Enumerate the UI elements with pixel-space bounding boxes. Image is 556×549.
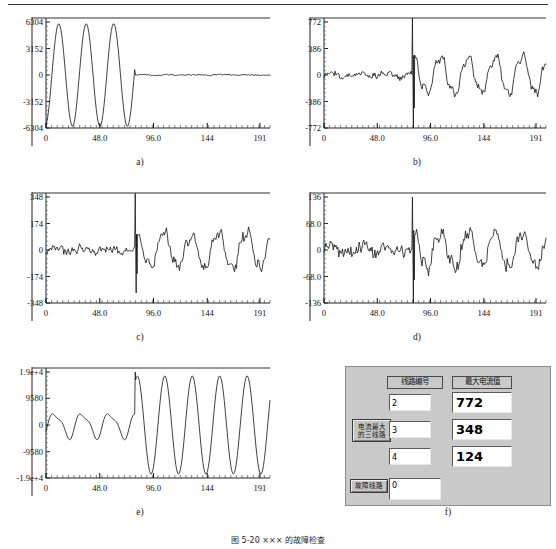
panel-caption-b: b) — [284, 157, 550, 167]
max-current-field-1[interactable]: 772 — [452, 392, 512, 413]
svg-text:191: 191 — [530, 133, 543, 143]
svg-text:191: 191 — [530, 308, 543, 318]
plot-panel-e: -1.9e+4-9580095801.9e+4048.096.0144191 — [6, 364, 274, 504]
svg-text:0: 0 — [322, 308, 326, 318]
svg-text:-348: -348 — [27, 298, 43, 308]
figure-caption: 图 5-20 ××× 的故障检查 — [0, 534, 556, 545]
svg-text:48.0: 48.0 — [370, 133, 385, 143]
svg-text:348: 348 — [30, 192, 43, 202]
svg-text:144: 144 — [201, 308, 215, 318]
svg-text:-386: -386 — [305, 97, 321, 107]
svg-text:-9580: -9580 — [23, 447, 43, 457]
column-header-line-number: 线路编号 — [387, 376, 443, 389]
svg-text:1.9e+4: 1.9e+4 — [19, 367, 43, 377]
svg-text:386: 386 — [308, 44, 322, 54]
svg-text:0: 0 — [317, 245, 321, 255]
column-header-max-current: 最大电流值 — [452, 376, 512, 389]
svg-text:0: 0 — [39, 70, 43, 80]
svg-text:68.0: 68.0 — [306, 219, 321, 229]
page-top-rule — [8, 4, 548, 5]
svg-text:144: 144 — [477, 133, 491, 143]
plot-svg-c: -348-1740174348048.096.0144191 — [6, 189, 274, 329]
svg-text:0: 0 — [44, 483, 48, 493]
panel-caption-d: d) — [284, 332, 550, 342]
svg-text:96.0: 96.0 — [146, 483, 161, 493]
panel-caption-f: f) — [345, 507, 551, 517]
max-current-field-3[interactable]: 124 — [452, 446, 512, 467]
svg-text:772: 772 — [308, 17, 321, 27]
svg-text:0: 0 — [44, 133, 48, 143]
svg-text:-136: -136 — [305, 298, 321, 308]
svg-text:191: 191 — [253, 483, 266, 493]
fault-line-output-field[interactable]: 0 — [389, 478, 441, 500]
plot-svg-a: -6304-3152031526304048.096.0144191 — [6, 14, 274, 154]
svg-text:48.0: 48.0 — [370, 308, 385, 318]
panel-caption-a: a) — [6, 157, 274, 167]
svg-text:48.0: 48.0 — [92, 133, 107, 143]
svg-text:0: 0 — [317, 70, 321, 80]
svg-text:-772: -772 — [305, 123, 321, 133]
plot-area-e: -1.9e+4-9580095801.9e+4048.096.0144191 — [6, 364, 274, 504]
svg-text:136: 136 — [308, 192, 322, 202]
svg-text:6304: 6304 — [26, 17, 44, 27]
top-three-button-label-line1: 电流最大 — [358, 423, 386, 431]
svg-text:144: 144 — [201, 133, 215, 143]
top-three-button-label-line2: 的三线路 — [358, 431, 386, 439]
plot-svg-d: -136-68.0068.0136048.096.0144191 — [284, 189, 550, 329]
plot-area-a: -6304-3152031526304048.096.0144191 — [6, 14, 274, 154]
fault-line-button[interactable]: 故障线路 — [350, 479, 388, 493]
figure-page: -6304-3152031526304048.096.0144191 a) -7… — [0, 0, 556, 549]
svg-text:48.0: 48.0 — [92, 308, 107, 318]
svg-text:96.0: 96.0 — [146, 308, 161, 318]
plot-area-c: -348-1740174348048.096.0144191 — [6, 189, 274, 329]
plot-area-d: -136-68.0068.0136048.096.0144191 — [284, 189, 550, 329]
svg-text:0: 0 — [39, 245, 43, 255]
plot-panel-b: -772-3860386772048.096.0144191 — [284, 14, 550, 154]
plot-svg-e: -1.9e+4-9580095801.9e+4048.096.0144191 — [6, 364, 274, 504]
svg-text:174: 174 — [30, 219, 44, 229]
svg-text:0: 0 — [322, 133, 326, 143]
svg-text:191: 191 — [253, 308, 266, 318]
top-three-max-current-button[interactable]: 电流最大 的三线路 — [352, 419, 391, 442]
panel-caption-e: e) — [6, 507, 274, 517]
line-number-field-1[interactable]: 2 — [389, 394, 431, 411]
svg-text:144: 144 — [201, 483, 215, 493]
svg-text:9580: 9580 — [26, 393, 43, 403]
svg-text:48.0: 48.0 — [92, 483, 107, 493]
plot-panel-a: -6304-3152031526304048.096.0144191 — [6, 14, 274, 154]
svg-text:144: 144 — [477, 308, 491, 318]
plot-panel-c: -348-1740174348048.096.0144191 — [6, 189, 274, 329]
plot-area-b: -772-3860386772048.096.0144191 — [284, 14, 550, 154]
fault-detection-dialog: 线路编号 最大电流值 电流最大 的三线路 2 3 4 772 348 124 故… — [345, 366, 551, 506]
fault-detection-dialog-panel: 线路编号 最大电流值 电流最大 的三线路 2 3 4 772 348 124 故… — [345, 366, 551, 506]
max-current-field-2[interactable]: 348 — [452, 419, 512, 440]
svg-text:96.0: 96.0 — [146, 133, 161, 143]
svg-text:-6304: -6304 — [23, 123, 44, 133]
plot-panel-d: -136-68.0068.0136048.096.0144191 — [284, 189, 550, 329]
line-number-field-3[interactable]: 4 — [389, 448, 431, 465]
svg-text:96.0: 96.0 — [423, 133, 438, 143]
svg-text:-68.0: -68.0 — [303, 272, 321, 282]
plot-svg-b: -772-3860386772048.096.0144191 — [284, 14, 550, 154]
svg-text:191: 191 — [253, 133, 266, 143]
svg-text:-3152: -3152 — [23, 97, 43, 107]
svg-text:-174: -174 — [27, 272, 43, 282]
svg-text:0: 0 — [44, 308, 48, 318]
svg-text:96.0: 96.0 — [423, 308, 438, 318]
line-number-field-2[interactable]: 3 — [389, 421, 431, 438]
panel-caption-c: c) — [6, 332, 274, 342]
svg-text:-1.9e+4: -1.9e+4 — [16, 473, 43, 483]
svg-text:3152: 3152 — [26, 44, 43, 54]
svg-text:0: 0 — [39, 420, 43, 430]
